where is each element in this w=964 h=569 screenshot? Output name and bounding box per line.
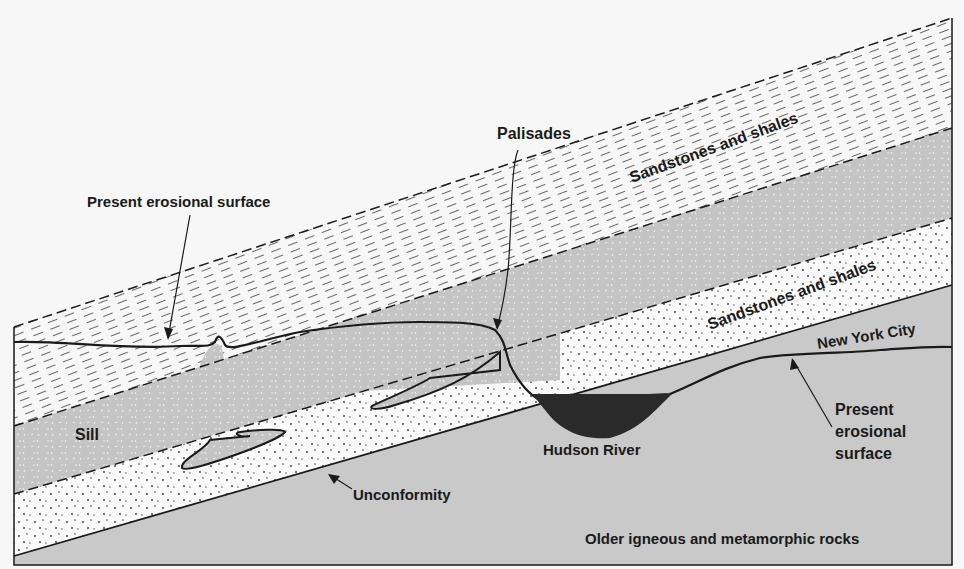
label-present-erosional-surface-right-2: erosional	[835, 423, 906, 440]
label-present-erosional-surface-left: Present erosional surface	[87, 193, 270, 210]
label-unconformity: Unconformity	[353, 486, 451, 503]
label-sill: Sill	[75, 426, 99, 443]
label-present-erosional-surface-right-1: Present	[835, 401, 894, 418]
label-hudson-river: Hudson River	[543, 441, 641, 458]
label-older-rocks: Older igneous and metamorphic rocks	[585, 530, 859, 547]
label-present-erosional-surface-right-3: surface	[835, 445, 892, 462]
label-palisades: Palisades	[497, 125, 571, 142]
cross-section-diagram: Palisades Present erosional surface Sand…	[0, 0, 964, 569]
